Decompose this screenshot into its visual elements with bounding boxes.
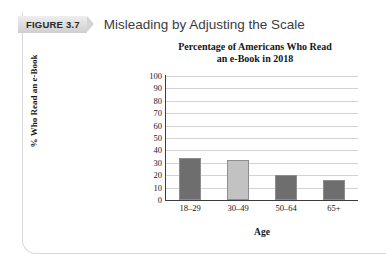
x-axis-tick-label: 18–29 (165, 203, 215, 213)
gridline (166, 138, 358, 139)
bar-chart: Percentage of Americans Who Read an e-Bo… (0, 0, 386, 268)
y-axis-tick-labels: 1009080706050403020100 (136, 76, 162, 200)
y-axis-tick-label: 50 (138, 134, 162, 142)
plot-gridlines-and-bars (166, 76, 358, 200)
y-axis-tick-label: 80 (138, 97, 162, 105)
bar (179, 158, 201, 200)
y-axis-tick-label: 60 (138, 122, 162, 130)
y-axis-tick-label: 100 (138, 72, 162, 80)
chart-title: Percentage of Americans Who Read an e-Bo… (152, 41, 358, 65)
plot-area (166, 76, 358, 200)
gridline (166, 113, 358, 114)
gridline (166, 126, 358, 127)
x-axis-title: Age (166, 227, 358, 237)
bar (227, 160, 249, 200)
bar (275, 175, 297, 200)
gridline (166, 88, 358, 89)
chart-title-line-2: an e-Book in 2018 (152, 53, 358, 65)
gridline (166, 101, 358, 102)
y-axis-tick-label: 30 (138, 159, 162, 167)
y-axis-tick-label: 40 (138, 146, 162, 154)
chart-title-line-1: Percentage of Americans Who Read (178, 41, 332, 52)
gridline (166, 150, 358, 151)
y-axis-line (165, 75, 166, 201)
gridline (166, 76, 358, 77)
y-axis-title: % Who Read an e-Book (29, 39, 39, 163)
x-axis-tick-label: 65+ (309, 203, 359, 213)
y-axis-tick-label: 0 (138, 196, 162, 204)
y-axis-tick-label: 10 (138, 184, 162, 192)
y-axis-tick-label: 90 (138, 84, 162, 92)
x-axis-tick-label: 30–49 (213, 203, 263, 213)
x-axis-line (165, 200, 358, 201)
y-axis-tick-label: 20 (138, 171, 162, 179)
x-axis-tick-label: 50–64 (261, 203, 311, 213)
y-axis-tick-label: 70 (138, 109, 162, 117)
x-axis-tick-labels: 18–2930–4950–6465+ (166, 203, 358, 217)
bar (323, 180, 345, 200)
